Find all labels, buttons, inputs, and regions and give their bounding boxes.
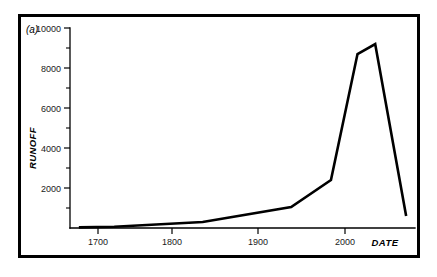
x-axis: 1700 1800 1900 2000 DATE [70,228,415,248]
x-tick-label-1800: 1800 [162,237,182,247]
runoff-data-line [79,44,406,227]
x-tick-label-2000: 2000 [335,237,355,247]
figure-root: (a) 10000 8000 6000 4000 2000 RUNOFF [0,0,437,277]
y-tick-label-6000: 6000 [41,104,61,114]
y-tick-label-4000: 4000 [41,144,61,154]
runoff-line-chart: (a) 10000 8000 6000 4000 2000 RUNOFF [0,0,437,277]
y-axis-title: RUNOFF [27,127,38,169]
x-tick-label-1700: 1700 [88,237,108,247]
y-axis: 10000 8000 6000 4000 2000 RUNOFF [27,24,70,229]
y-tick-label-8000: 8000 [41,64,61,74]
x-tick-label-1900: 1900 [248,237,268,247]
x-axis-title: DATE [372,237,399,248]
y-tick-label-2000: 2000 [41,184,61,194]
y-tick-label-10000: 10000 [36,24,61,34]
